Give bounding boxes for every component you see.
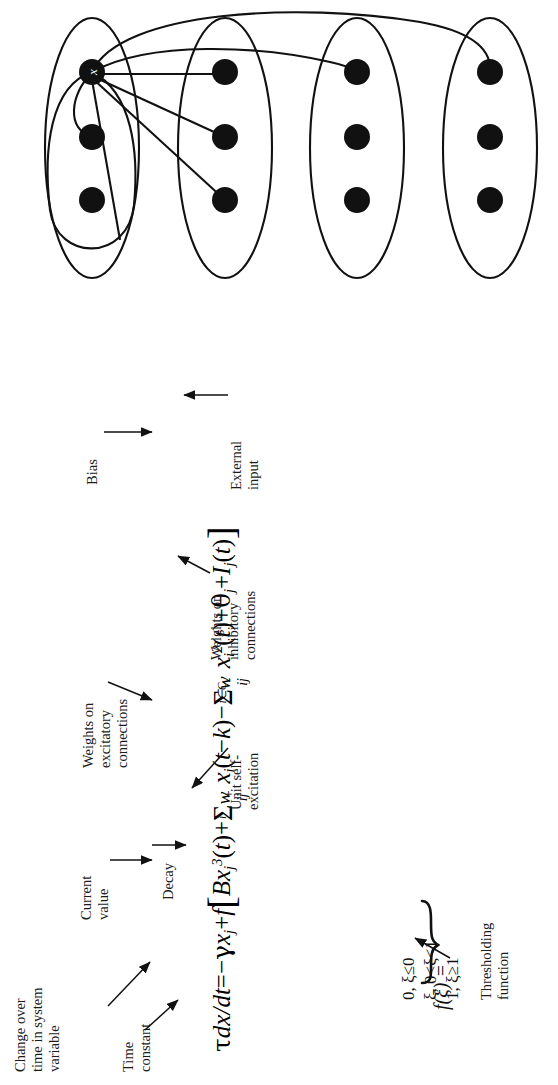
callout-line: excitation [245, 753, 262, 810]
node-g3-r1 [344, 59, 370, 85]
callout-line: constant [137, 1024, 154, 1072]
callout-line: inhibitory [225, 591, 242, 660]
callout-line: variable [46, 987, 63, 1072]
node-g1-r2 [79, 124, 105, 150]
node-g2-r3 [212, 187, 238, 213]
callout-current-value: Current value [78, 876, 112, 920]
node-g2-r1 [212, 59, 238, 85]
group1-outer-loop [48, 72, 136, 248]
equation-region [0, 300, 558, 1085]
callout-unit-self-excitation: Unit self- excitation [228, 753, 262, 810]
case-1: 0, ξ≤0 [398, 940, 420, 1000]
callout-line: Bias [84, 459, 101, 485]
node-g1-r3 [79, 187, 105, 213]
callout-line: Weights on [208, 591, 225, 660]
node-g3-r3 [344, 187, 370, 213]
callout-line: Thresholding [478, 923, 495, 1000]
callout-line: Time [120, 1024, 137, 1072]
callout-line: Current [78, 876, 95, 920]
piecewise-cases: 0, ξ≤0 ξ, 0<ξ<1 1, ξ≥1 [398, 940, 464, 1000]
edge-x-to-group4-top [92, 12, 490, 72]
node-g4-r1 [477, 59, 503, 85]
callout-weights-inhibitory: Weights on inhibitory connections [208, 591, 259, 660]
callout-line: Decay [160, 863, 177, 900]
callout-bias: Bias [84, 459, 101, 485]
case-2: ξ, 0<ξ<1 [420, 940, 442, 1000]
node-g4-r2 [477, 124, 503, 150]
callout-line: function [495, 923, 512, 1000]
node-g2-r2 [212, 124, 238, 150]
edge-x-to-g2-row2 [92, 76, 225, 137]
node-g4-r3 [477, 187, 503, 213]
callout-line: Change over [12, 987, 29, 1072]
callout-time-constant: Time constant [120, 1024, 154, 1072]
node-g3-r2 [344, 124, 370, 150]
edge-x-to-g1-row3 [92, 80, 120, 240]
nodes [79, 59, 503, 213]
callout-line: External [228, 441, 245, 490]
callout-line: connections [114, 699, 131, 768]
callout-external-input: External input [228, 441, 262, 490]
callout-weights-excitatory: Weights on excitatory connections [80, 699, 131, 768]
figure-page: x τdx/dt=−γxj+f[Bxj3(t)+Σiw+ijxi(t−k)−Σi… [0, 0, 558, 1085]
edge-x-to-g2-row3 [92, 78, 225, 200]
callout-line: time in system [29, 987, 46, 1072]
callout-line: excitatory [97, 699, 114, 768]
callout-change-over-time: Change over time in system variable [12, 987, 63, 1072]
callout-line: input [245, 441, 262, 490]
highlighted-node-label: x [85, 69, 100, 76]
case-3: 1, ξ≥1 [442, 940, 464, 1000]
callout-line: value [95, 876, 112, 920]
network-diagram: x [0, 0, 558, 300]
callout-decay: Decay [160, 863, 177, 900]
callout-thresholding-function: Thresholding function [478, 923, 512, 1000]
callout-line: Unit self- [228, 753, 245, 810]
callout-line: connections [242, 591, 259, 660]
callout-line: Weights on [80, 699, 97, 768]
